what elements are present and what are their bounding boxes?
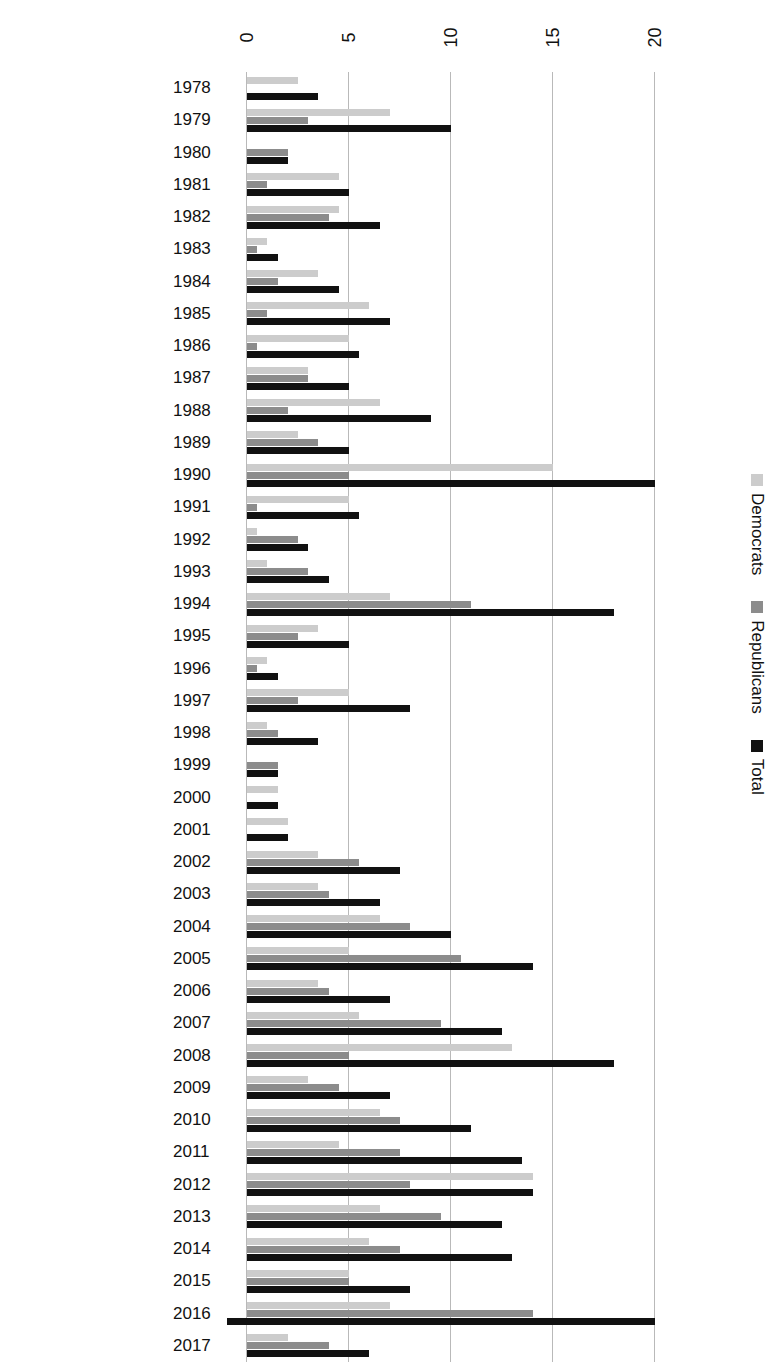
bar-total-1994 — [247, 609, 614, 616]
bar-group-2009 — [247, 1072, 655, 1104]
category-label-2016: 2016 — [173, 1298, 233, 1330]
category-label-2006: 2006 — [173, 975, 233, 1007]
bar-group-1993 — [247, 556, 655, 588]
bar-republicans-2005 — [247, 955, 461, 962]
legend-swatch-total-icon — [751, 740, 763, 752]
bar-democrats-1997 — [247, 689, 349, 696]
category-label-2015: 2015 — [173, 1265, 233, 1297]
bar-republicans-1992 — [247, 536, 298, 543]
bar-group-1984 — [247, 266, 655, 298]
category-label-1999: 1999 — [173, 749, 233, 781]
bar-group-1978 — [247, 72, 655, 104]
bar-total-1998 — [247, 738, 318, 745]
bar-group-1987 — [247, 362, 655, 394]
category-label-1981: 1981 — [173, 169, 233, 201]
bar-democrats-2014 — [247, 1238, 369, 1245]
category-label-1984: 1984 — [173, 266, 233, 298]
category-axis-labels: 2017201620152014201320122011201020092008… — [123, 72, 243, 1362]
bar-total-1988 — [247, 415, 431, 422]
bar-total-1995 — [247, 641, 349, 648]
category-label-2007: 2007 — [173, 1007, 233, 1039]
bar-democrats-1996 — [247, 657, 267, 664]
bar-republicans-1984 — [247, 278, 278, 285]
bar-republicans-1983 — [247, 246, 257, 253]
bar-republicans-1981 — [247, 181, 267, 188]
bar-democrats-2012 — [247, 1173, 533, 1180]
bar-group-2001 — [247, 814, 655, 846]
bar-group-1995 — [247, 620, 655, 652]
bar-total-2003 — [247, 899, 380, 906]
bar-democrats-2004 — [247, 915, 380, 922]
bar-total-1979 — [247, 125, 451, 132]
bar-republicans-2008 — [247, 1052, 349, 1059]
bar-total-1991 — [247, 512, 359, 519]
bar-democrats-2010 — [247, 1109, 380, 1116]
bar-republicans-2011 — [247, 1149, 400, 1156]
bar-democrats-2002 — [247, 851, 318, 858]
bar-republicans-1996 — [247, 665, 257, 672]
bar-group-2011 — [247, 1136, 655, 1168]
bar-democrats-2017 — [247, 1334, 288, 1341]
bar-democrats-2011 — [247, 1141, 339, 1148]
category-label-1986: 1986 — [173, 330, 233, 362]
legend-entry-republicans: Republicans — [747, 601, 767, 714]
bar-democrats-1991 — [247, 496, 349, 503]
category-label-2005: 2005 — [173, 943, 233, 975]
value-tick-20: 20 — [645, 20, 666, 56]
bar-republicans-1982 — [247, 214, 329, 221]
category-label-1994: 1994 — [173, 588, 233, 620]
bar-republicans-2007 — [247, 1020, 441, 1027]
bar-democrats-1993 — [247, 560, 267, 567]
bar-group-1992 — [247, 524, 655, 556]
value-axis-labels: 05101520 — [247, 6, 655, 66]
legend-swatch-democrats-icon — [751, 474, 763, 486]
category-label-1982: 1982 — [173, 201, 233, 233]
bar-republicans-1990 — [247, 472, 349, 479]
category-label-2008: 2008 — [173, 1040, 233, 1072]
bar-democrats-1978 — [247, 77, 298, 84]
value-tick-5: 5 — [339, 20, 360, 56]
bar-total-2014 — [247, 1254, 512, 1261]
category-label-1979: 1979 — [173, 104, 233, 136]
bar-total-2007 — [247, 1028, 502, 1035]
bar-total-1989 — [247, 447, 349, 454]
category-label-1978: 1978 — [173, 72, 233, 104]
bar-democrats-1985 — [247, 302, 369, 309]
category-label-1992: 1992 — [173, 524, 233, 556]
bar-republicans-1988 — [247, 407, 288, 414]
category-label-2017: 2017 — [173, 1330, 233, 1362]
bar-total-1987 — [247, 383, 349, 390]
legend-label: Democrats — [747, 493, 767, 575]
bar-total-2015 — [247, 1286, 410, 1293]
bar-group-2012 — [247, 1169, 655, 1201]
bar-republicans-2016 — [247, 1310, 533, 1317]
category-label-2000: 2000 — [173, 782, 233, 814]
category-label-1996: 1996 — [173, 653, 233, 685]
bar-republicans-2015 — [247, 1278, 349, 1285]
bar-democrats-1987 — [247, 367, 308, 374]
category-label-2011: 2011 — [173, 1136, 233, 1168]
bar-total-1996 — [247, 673, 278, 680]
bar-republicans-1979 — [247, 117, 308, 124]
bar-democrats-2003 — [247, 883, 318, 890]
category-label-1985: 1985 — [173, 298, 233, 330]
legend-label: Total — [747, 759, 767, 795]
category-label-2012: 2012 — [173, 1169, 233, 1201]
bar-democrats-1990 — [247, 464, 553, 471]
bar-democrats-2016 — [247, 1302, 390, 1309]
bar-total-2011 — [247, 1157, 522, 1164]
bar-total-2000 — [247, 802, 278, 809]
bar-total-1992 — [247, 544, 308, 551]
bar-total-2009 — [247, 1092, 390, 1099]
bar-republicans-2013 — [247, 1213, 441, 1220]
legend-entry-total: Total — [747, 740, 767, 795]
bar-group-1986 — [247, 330, 655, 362]
category-label-2002: 2002 — [173, 846, 233, 878]
bar-group-2014 — [247, 1233, 655, 1265]
bar-total-1978 — [247, 93, 318, 100]
bar-democrats-1994 — [247, 593, 390, 600]
value-tick-0: 0 — [237, 20, 258, 56]
bar-total-1982 — [247, 222, 380, 229]
bar-total-1984 — [247, 286, 339, 293]
category-label-1993: 1993 — [173, 556, 233, 588]
